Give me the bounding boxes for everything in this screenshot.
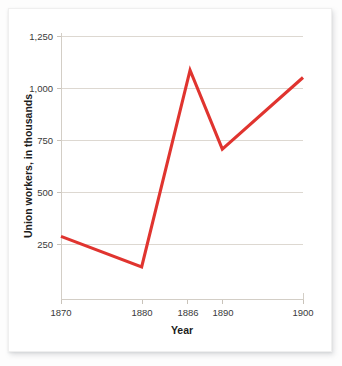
y-axis-title: Union workers, in thousands	[22, 94, 34, 238]
x-tick-label-1890: 1890	[212, 307, 233, 318]
x-tick-label-1870: 1870	[50, 307, 71, 318]
y-tick-label-1250: 1,250	[29, 31, 53, 42]
gridlines	[61, 37, 303, 245]
y-tick-marks	[57, 37, 61, 245]
axes	[62, 33, 304, 300]
x-tick-label-1900: 1900	[292, 307, 313, 318]
y-tick-label-500: 500	[37, 187, 53, 198]
x-tick-label-1880: 1880	[131, 307, 152, 318]
series-line-union-workers	[61, 70, 303, 267]
line-chart: 1,250 1,000 750 500 250 1870 1880 1886 1…	[0, 0, 342, 366]
figure-root: 1,250 1,000 750 500 250 1870 1880 1886 1…	[0, 0, 342, 366]
y-tick-label-750: 750	[37, 135, 53, 146]
x-axis-title: Year	[171, 324, 193, 336]
x-tick-label-1886: 1886	[177, 307, 198, 318]
x-tick-labels: 1870 1880 1886 1890 1900	[50, 307, 313, 318]
y-tick-label-250: 250	[37, 239, 53, 250]
axis-spines	[62, 33, 304, 300]
y-tick-label-1000: 1,000	[29, 83, 53, 94]
